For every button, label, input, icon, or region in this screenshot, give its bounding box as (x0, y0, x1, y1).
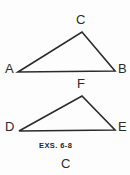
triangle-abc (18, 32, 115, 72)
vertex-label-b: B (118, 62, 127, 75)
vertex-label-a: A (5, 62, 14, 75)
triangle-def (19, 96, 115, 131)
vertex-label-d: D (5, 120, 14, 133)
panel-letter: C (61, 156, 70, 171)
geometry-figure: A B C D E F EXS. 6-8 C (0, 0, 130, 175)
vertex-label-c: C (76, 13, 85, 26)
vertex-label-e: E (118, 120, 127, 133)
vertex-label-f: F (77, 77, 85, 90)
exercise-caption: EXS. 6-8 (39, 141, 72, 150)
